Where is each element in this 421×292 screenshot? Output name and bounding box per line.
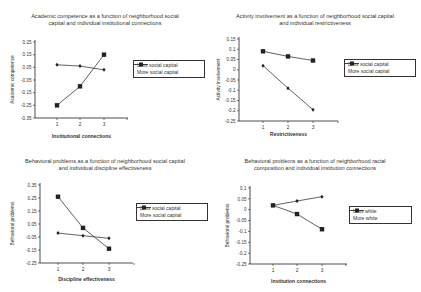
- x-axis-label: Discipline effectiveness: [40, 276, 133, 282]
- series-diamond: [56, 231, 110, 240]
- chart-panel-1: Academic competence as a function of nei…: [0, 0, 210, 146]
- y-tick-label: 0.15: [28, 209, 37, 214]
- square-marker-icon: [320, 227, 324, 231]
- y-tick-label: 0.15: [23, 52, 32, 57]
- square-marker-icon: [261, 49, 265, 53]
- series-line: [58, 197, 109, 249]
- x-axis-label: Institution connections: [250, 278, 347, 284]
- y-tick-label: 0.05: [28, 222, 37, 227]
- y-tick-label: -0.35: [21, 116, 32, 121]
- x-tick-label: 3: [103, 122, 106, 127]
- y-tick-label: 0.15: [227, 37, 236, 42]
- y-axis-label: Behavioral problems: [10, 189, 15, 259]
- diamond-marker-icon: [55, 63, 58, 67]
- y-tick-label: 0.25: [23, 40, 32, 45]
- x-axis-label: Restrictiveness: [239, 131, 338, 137]
- series-line: [57, 55, 104, 106]
- y-axis-label: Activity involvement: [216, 45, 221, 115]
- y-tick-label: -0.1: [239, 229, 247, 234]
- legend-label: More social capital: [348, 68, 389, 75]
- square-legend-icon: [345, 60, 359, 67]
- chart-panel-2: Activity involvement as a function of ne…: [210, 0, 420, 146]
- y-tick-label: -0.25: [21, 103, 32, 108]
- x-tick-label: 2: [287, 125, 290, 130]
- y-tick-label: 0.05: [238, 197, 247, 202]
- series-diamond: [271, 195, 323, 208]
- square-marker-icon: [56, 195, 60, 199]
- x-tick-label: 1: [272, 268, 275, 273]
- square-marker-icon: [295, 212, 299, 216]
- y-tick-label: 0.05: [227, 57, 236, 62]
- square-marker-icon: [271, 203, 275, 207]
- diamond-marker-icon: [102, 68, 105, 72]
- y-tick-label: -0.15: [225, 98, 236, 103]
- y-tick-label: 0.25: [28, 196, 37, 201]
- y-tick-label: -0.25: [236, 262, 247, 267]
- series-square: [55, 52, 106, 107]
- diamond-marker-icon: [56, 231, 59, 235]
- y-tick-label: -0.15: [26, 248, 37, 253]
- y-tick-label: -0.15: [21, 90, 32, 95]
- y-tick-label: 0.1: [229, 47, 236, 52]
- y-tick-label: -0.25: [225, 119, 236, 124]
- x-tick-label: 3: [312, 125, 315, 130]
- legend: Less whiteMore white: [349, 206, 412, 224]
- y-tick-label: -0.25: [26, 261, 37, 266]
- legend: Less social capitalMore social capital: [344, 59, 416, 77]
- legend-label: More social capital: [140, 212, 181, 219]
- x-tick-label: 3: [108, 267, 111, 272]
- series-line: [273, 205, 322, 229]
- x-tick-label: 3: [321, 268, 324, 273]
- x-tick-label: 1: [56, 122, 59, 127]
- legend-label: More white: [353, 215, 377, 222]
- square-marker-icon: [81, 226, 85, 230]
- diamond-marker-icon: [295, 199, 298, 203]
- y-tick-label: -0.05: [21, 78, 32, 83]
- y-tick-label: -0.05: [236, 218, 247, 223]
- x-tick-label: 1: [262, 125, 265, 130]
- y-tick-label: -0.2: [239, 251, 247, 256]
- series-square: [56, 195, 111, 251]
- square-marker-icon: [107, 247, 111, 251]
- chart-panel-4: Behavioral problems as a function of nei…: [210, 145, 420, 291]
- series-square: [261, 49, 315, 63]
- y-tick-label: 0: [233, 67, 236, 72]
- x-tick-label: 2: [79, 122, 82, 127]
- y-tick-label: -0.2: [228, 108, 236, 113]
- square-marker-icon: [311, 58, 315, 62]
- square-marker-icon: [78, 84, 82, 88]
- square-marker-icon: [102, 52, 106, 56]
- square-legend-icon: [350, 207, 364, 214]
- series-square: [271, 203, 324, 231]
- legend-label: More social capital: [137, 69, 178, 76]
- diamond-marker-icon: [107, 236, 110, 240]
- series-diamond: [261, 64, 314, 112]
- legend: Less social capitalMore social capital: [136, 203, 208, 221]
- square-marker-icon: [286, 54, 290, 58]
- diamond-marker-icon: [81, 234, 84, 238]
- x-tick-label: 2: [82, 267, 85, 272]
- y-tick-label: -0.1: [228, 88, 236, 93]
- x-tick-label: 1: [57, 267, 60, 272]
- x-axis-label: Institutional connections: [35, 133, 128, 139]
- y-axis-label: Behavioral problems: [225, 191, 230, 261]
- y-tick-label: 0: [244, 207, 247, 212]
- chart-panel-3: Behavioral problems as a function of nei…: [0, 145, 210, 291]
- square-marker-icon: [55, 103, 59, 107]
- legend-item: More social capital: [140, 212, 204, 219]
- y-tick-label: 0.35: [28, 183, 37, 188]
- x-tick-label: 2: [296, 268, 299, 273]
- series-diamond: [55, 63, 105, 72]
- y-tick-label: -0.05: [26, 235, 37, 240]
- legend-item: More social capital: [348, 68, 412, 75]
- diamond-marker-icon: [320, 195, 323, 199]
- y-tick-label: -0.05: [225, 78, 236, 83]
- diamond-marker-icon: [78, 64, 81, 68]
- legend-item: More white: [353, 215, 408, 222]
- legend-item: More social capital: [137, 69, 201, 76]
- legend: Less social capitalMore social capital: [133, 60, 205, 78]
- square-legend-icon: [137, 204, 151, 211]
- y-tick-label: -0.15: [236, 240, 247, 245]
- square-legend-icon: [134, 61, 148, 68]
- y-axis-label: Academic competence: [10, 45, 15, 115]
